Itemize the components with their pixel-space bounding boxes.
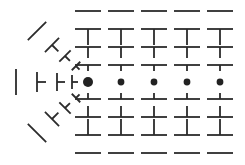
field-canvas xyxy=(0,0,245,165)
singular-point-dot xyxy=(83,77,93,87)
field-dot-4 xyxy=(217,79,224,86)
field-dot-2 xyxy=(151,79,158,86)
line-element-field-figure xyxy=(0,0,245,165)
field-dot-1 xyxy=(118,79,125,86)
field-dot-3 xyxy=(184,79,191,86)
